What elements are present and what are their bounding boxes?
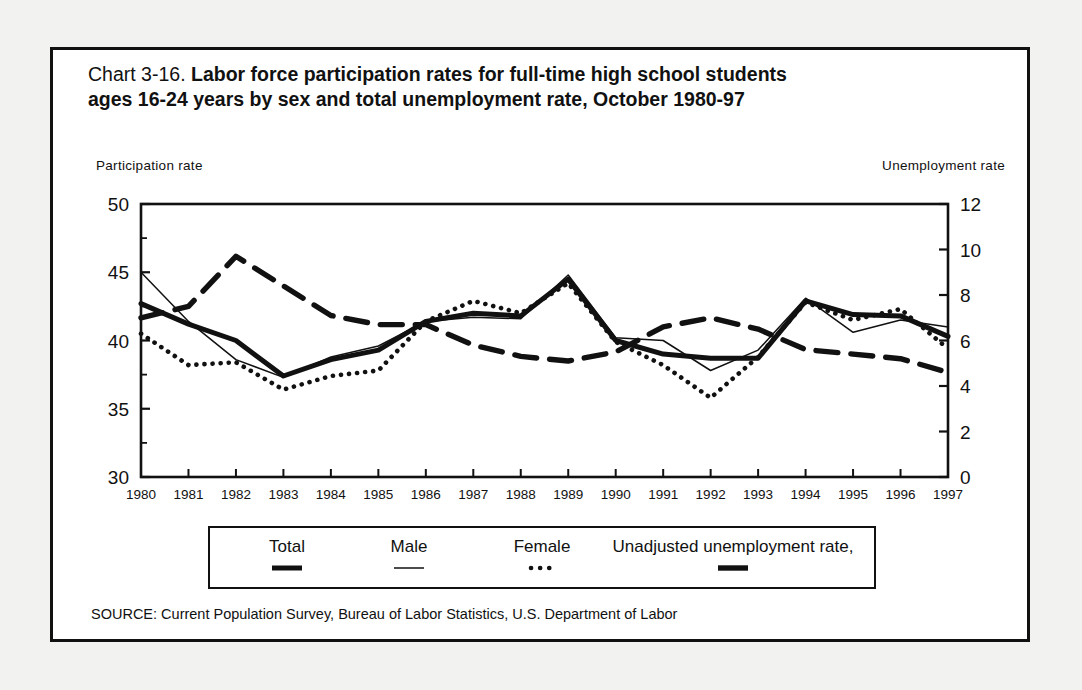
- chart-figure-frame: Chart 3-16. Labor force participation ra…: [50, 47, 1030, 642]
- y-axis-tick-label-right: 12: [960, 194, 981, 215]
- legend-item-total[interactable]: Total: [228, 537, 346, 573]
- y-axis-tick-label-left: 50: [108, 194, 129, 215]
- x-axis-tick-label: 1996: [886, 487, 916, 502]
- x-axis-tick-label: 1995: [838, 487, 868, 502]
- series-line-female: [141, 283, 948, 398]
- y-axis-tick-label-right: 6: [960, 331, 971, 352]
- x-axis-tick-label: 1990: [601, 487, 631, 502]
- source-note: SOURCE: Current Population Survey, Burea…: [91, 606, 677, 622]
- y-axis-tick-label-right: 0: [960, 467, 971, 488]
- legend-swatch-thick-dashed: [710, 563, 756, 573]
- y-axis-tick-label-right: 4: [960, 376, 971, 397]
- x-axis-tick-label: 1992: [696, 487, 726, 502]
- y-axis-tick-label-left: 40: [108, 331, 129, 352]
- series-line-total: [141, 279, 948, 376]
- x-axis-tick-label: 1989: [553, 487, 583, 502]
- y-axis-tick-label-right: 8: [960, 285, 971, 306]
- x-axis-tick-label: 1987: [458, 487, 488, 502]
- legend-swatch-thin-solid: [386, 563, 432, 573]
- x-axis-tick-label: 1991: [648, 487, 678, 502]
- y-axis-tick-label-left: 30: [108, 467, 129, 488]
- x-axis-tick-label: 1997: [933, 487, 963, 502]
- y-axis-tick-label-left: 45: [108, 262, 129, 283]
- x-axis-tick-label: 1981: [173, 487, 203, 502]
- legend-item-female[interactable]: Female: [478, 537, 606, 573]
- x-axis-tick-label: 1983: [268, 487, 298, 502]
- plot-frame: [141, 204, 948, 477]
- y-axis-tick-label-right: 2: [960, 422, 971, 443]
- legend-item-label: Unadjusted unemployment rate,: [602, 537, 864, 557]
- x-axis-tick-label: 1982: [221, 487, 251, 502]
- x-axis-tick-label: 1984: [316, 487, 347, 502]
- x-axis-tick-label: 1994: [791, 487, 822, 502]
- legend-item-label: Total: [228, 537, 346, 557]
- legend-item-male[interactable]: Male: [350, 537, 468, 573]
- x-axis-tick-label: 1986: [411, 487, 441, 502]
- legend-item-label: Female: [478, 537, 606, 557]
- x-axis-tick-label: 1988: [506, 487, 536, 502]
- y-axis-tick-label-left: 35: [108, 399, 129, 420]
- chart-legend: TotalMaleFemaleUnadjusted unemployment r…: [208, 526, 876, 589]
- legend-swatch-dotted: [519, 563, 565, 573]
- x-axis-tick-label: 1985: [363, 487, 393, 502]
- legend-swatch-thick-solid: [264, 563, 310, 573]
- x-axis-tick-label: 1993: [743, 487, 773, 502]
- legend-item-unadjusted-unemployment-rate[interactable]: Unadjusted unemployment rate,: [602, 537, 864, 573]
- legend-item-label: Male: [350, 537, 468, 557]
- x-axis-tick-label: 1980: [126, 487, 156, 502]
- y-axis-tick-label-right: 10: [960, 240, 981, 261]
